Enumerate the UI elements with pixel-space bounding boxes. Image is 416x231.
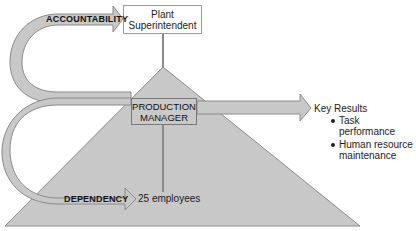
accountability-dependency-diagram: Plant Superintendent PRODUCTION MANAGER … xyxy=(0,0,416,231)
key-results-list: Task performance Human resource maintena… xyxy=(314,115,416,161)
key-result-item: Human resource maintenance xyxy=(331,139,416,161)
bullet-icon xyxy=(331,119,335,123)
bullet-icon xyxy=(331,143,335,147)
superintendent-label-line1: Plant xyxy=(124,9,201,20)
manager-label-line2: MANAGER xyxy=(132,112,196,123)
key-result-item: Task performance xyxy=(331,115,416,137)
plant-superintendent-box: Plant Superintendent xyxy=(123,5,202,34)
accountability-label: ACCOUNTABILITY xyxy=(46,14,128,24)
employees-label: 25 employees xyxy=(138,193,200,204)
key-results: Key Results Task performance Human resou… xyxy=(314,103,416,163)
dependency-label: DEPENDENCY xyxy=(64,194,129,204)
manager-label-line1: PRODUCTION xyxy=(132,101,196,112)
superintendent-label-line2: Superintendent xyxy=(124,20,201,31)
production-manager-box: PRODUCTION MANAGER xyxy=(131,98,197,125)
key-results-title: Key Results xyxy=(314,103,416,114)
